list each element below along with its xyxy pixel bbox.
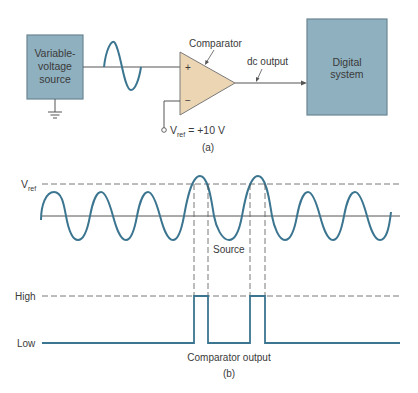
caption-b: (b)	[223, 368, 235, 379]
comparator-output-waveform	[42, 296, 400, 343]
source-label-line2: voltage	[38, 60, 72, 72]
high-level-label: High	[15, 291, 36, 302]
source-waveform	[41, 176, 391, 240]
dc-output-pointer-arrow	[256, 69, 262, 82]
source-label: Source	[213, 244, 245, 255]
source-label-line3: source	[39, 73, 71, 85]
plus-input-sign: +	[185, 62, 191, 73]
comparator-pointer-arrow	[205, 50, 214, 65]
source-label-line1: Variable-	[34, 47, 76, 59]
comparator-diagram: Variable- voltage source + − Comparator …	[0, 0, 418, 393]
dc-output-label: dc output	[247, 56, 288, 67]
caption-a: (a)	[202, 142, 214, 153]
ground-icon	[48, 99, 62, 118]
minus-input-sign: −	[185, 95, 191, 106]
vref-label: Vref= +10 V	[170, 124, 225, 138]
vref-axis-label: Vref	[21, 178, 36, 192]
output-arrowhead	[301, 81, 307, 86]
low-level-label: Low	[17, 338, 36, 349]
comparator-output-label: Comparator output	[187, 352, 271, 363]
digital-label-line2: system	[330, 68, 364, 80]
digital-label-line1: Digital	[332, 56, 361, 68]
vref-terminal	[162, 128, 167, 133]
comparator-label: Comparator	[189, 38, 242, 49]
input-sine-wave	[104, 42, 141, 90]
